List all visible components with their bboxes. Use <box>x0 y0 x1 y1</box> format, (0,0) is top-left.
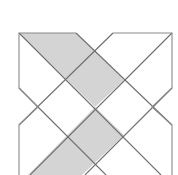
pattern-svg <box>0 0 178 175</box>
pattern-diagram <box>0 0 178 175</box>
right-outline <box>113 33 172 175</box>
upper-shaded-band <box>19 33 124 107</box>
lower-shaded-band <box>28 107 124 175</box>
